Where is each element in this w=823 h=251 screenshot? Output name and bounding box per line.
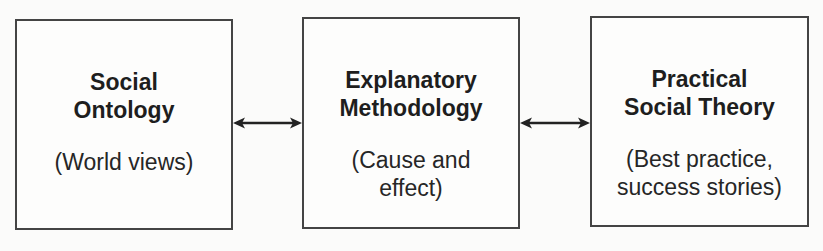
- bidirectional-arrow-icon: [520, 116, 590, 130]
- box-subtitle: (Cause and effect): [352, 146, 471, 202]
- box-title: Practical Social Theory: [624, 65, 775, 121]
- box-subtitle: (Best practice, success stories): [617, 145, 782, 201]
- bidirectional-arrow-icon: [233, 116, 302, 130]
- box-title: Social Ontology: [74, 68, 175, 124]
- box-social-ontology: Social Ontology (World views): [15, 19, 233, 230]
- box-subtitle: (World views): [55, 148, 194, 176]
- box-title: Explanatory Methodology: [339, 66, 482, 122]
- box-practical-social-theory: Practical Social Theory (Best practice, …: [590, 16, 809, 227]
- box-explanatory-methodology: Explanatory Methodology (Cause and effec…: [302, 17, 520, 229]
